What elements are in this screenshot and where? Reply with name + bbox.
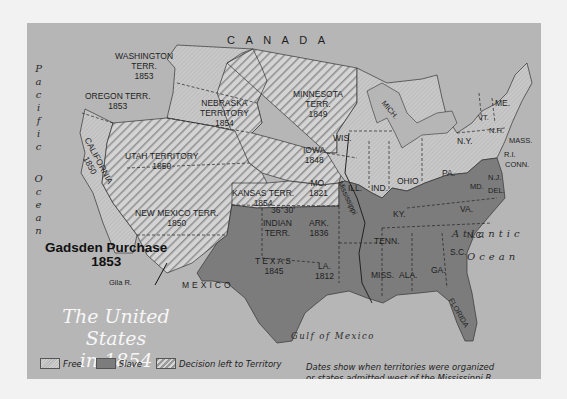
- legend-territory: Decision left to Territory: [156, 358, 282, 369]
- label-ga: GA.: [431, 265, 446, 275]
- slave-swatch-icon: [96, 358, 116, 369]
- label-arkansas: ARK.1836: [309, 218, 329, 238]
- label-gadsden-purchase: Gadsden Purchase 1853: [45, 241, 167, 269]
- label-me: ME.: [495, 98, 510, 108]
- label-gulf-of-mexico: Gulf of Mexico: [291, 331, 375, 341]
- label-pacific-ocean: Ocean: [33, 173, 44, 238]
- legend-slave: Slave: [96, 358, 142, 369]
- map-frame: C A N A D A MEXICO Pacific Ocean Atlanti…: [27, 23, 541, 379]
- label-sc: S.C.: [450, 247, 467, 257]
- label-ill: ILL.: [348, 183, 362, 193]
- label-nh: N.H.: [489, 126, 504, 136]
- label-missouri: MO.1821: [309, 178, 328, 198]
- label-vt: VT.: [478, 113, 489, 123]
- label-md: MD.: [470, 182, 484, 192]
- label-miss: MISS.: [371, 270, 394, 280]
- territory-swatch-icon: [156, 358, 176, 369]
- label-conn: CONN.: [505, 160, 529, 170]
- label-nj: N.J.: [488, 173, 501, 183]
- label-indian-territory: INDIANTERR.: [263, 218, 292, 238]
- label-36-30-line: 36°30': [271, 205, 295, 215]
- label-texas: TEXAS1845: [255, 256, 293, 276]
- label-nc: N.C.: [467, 230, 484, 240]
- legend: Free Slave Decision left to Territory: [40, 358, 292, 369]
- label-ny: N.Y.: [457, 136, 472, 146]
- label-del: DEL.: [488, 186, 505, 196]
- label-gila-river: Gila R.: [109, 278, 132, 288]
- free-swatch-icon: [40, 358, 60, 369]
- label-wis: WIS.: [333, 133, 351, 143]
- label-utah: UTAH TERRITORY1850: [125, 151, 199, 171]
- label-louisiana: LA.1812: [315, 261, 334, 281]
- label-ri: R.I.: [504, 150, 516, 160]
- label-ala: ALA.: [399, 270, 417, 280]
- label-pa: PA.: [442, 168, 455, 178]
- label-new-mexico: NEW MEXICO TERR.1850: [135, 208, 218, 228]
- label-oregon: OREGON TERR.1853: [85, 91, 151, 111]
- label-canada: C A N A D A: [227, 35, 329, 45]
- label-va: VA.: [460, 204, 473, 214]
- legend-free: Free: [40, 358, 82, 369]
- label-atlantic-ocean: Ocean: [467, 251, 519, 262]
- label-mexico: MEXICO: [182, 280, 234, 290]
- label-atlantic: Atlantic: [452, 228, 523, 239]
- label-ky: KY.: [393, 209, 406, 219]
- label-washington: WASHINGTONTERR.1853: [115, 51, 173, 81]
- label-nebraska: NEBRASKATERRITORY1854: [200, 98, 249, 128]
- label-pacific: Pacific: [33, 63, 44, 154]
- label-ohio: OHIO: [397, 176, 419, 186]
- label-minnesota: MINNESOTATERR.1849: [293, 89, 343, 119]
- label-ind: IND.: [371, 183, 388, 193]
- label-mass: MASS.: [509, 136, 532, 146]
- dates-note: Dates show when territories were organiz…: [306, 362, 494, 379]
- label-iowa: IOWA1848: [303, 145, 325, 165]
- label-tenn: TENN.: [374, 236, 400, 246]
